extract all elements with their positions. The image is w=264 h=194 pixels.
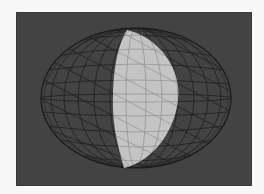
wireframe-sphere-figure: [0, 0, 264, 194]
